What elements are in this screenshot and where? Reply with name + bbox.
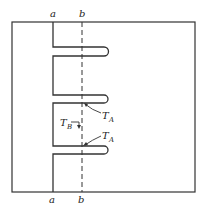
label-bottom-b: b	[78, 194, 84, 205]
label-bottom-a: a	[49, 194, 55, 205]
label-ta2-sub: A	[108, 136, 114, 144]
arrow-ta2	[85, 136, 101, 145]
fin-diagram: a b a b T A T B T A	[0, 0, 201, 211]
arrowhead-tb	[77, 125, 81, 129]
fin-profile-line-a	[53, 22, 109, 192]
label-top-b: b	[79, 8, 85, 19]
label-tb-sub: B	[66, 123, 72, 131]
arrow-ta1	[85, 104, 101, 113]
label-ta1-sub: A	[108, 116, 114, 124]
label-top-a: a	[50, 8, 56, 19]
